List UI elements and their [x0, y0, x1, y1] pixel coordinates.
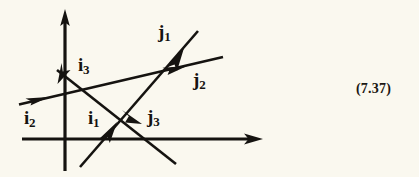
vector-label-j2-subscript: 2: [199, 77, 205, 92]
vector-label-j2: j2: [193, 70, 205, 91]
vector-label-i1-subscript: 1: [93, 115, 99, 130]
vector-label-i3-subscript: 3: [83, 62, 89, 77]
line-i1-j1-shaft: [80, 31, 198, 167]
axes-group: [22, 9, 263, 171]
vector-label-i3: i3: [78, 55, 89, 76]
vector-label-j3-subscript: 3: [153, 114, 159, 129]
vector-label-j1-subscript: 1: [164, 29, 170, 44]
figure-root: i1 i2 i3 j1 j2 j3 (7.37): [0, 0, 419, 177]
line-i1-j1: [80, 31, 198, 167]
vector-label-i1: i1: [88, 108, 99, 129]
vector-label-i2-subscript: 2: [29, 115, 35, 130]
vector-label-j3: j3: [147, 107, 159, 128]
equation-number: (7.37): [356, 81, 391, 97]
vector-label-i2: i2: [24, 108, 35, 129]
vector-label-j1: j1: [158, 22, 170, 43]
